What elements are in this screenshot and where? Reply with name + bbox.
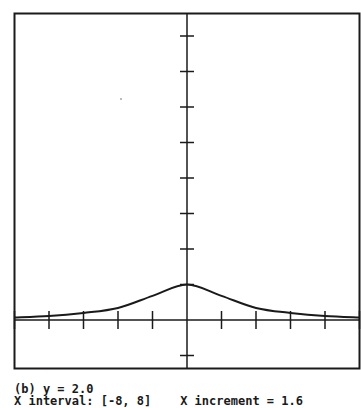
noise-speck: [120, 98, 122, 100]
chart-caption-interval: X interval: [-8, 8] X increment = 1.6: [14, 395, 303, 407]
plot-area: [0, 0, 361, 380]
